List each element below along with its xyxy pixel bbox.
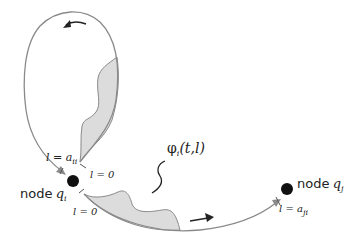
label-out-start: l = 0 bbox=[73, 207, 97, 217]
label-loop-end: l = aii bbox=[46, 152, 77, 166]
loop-direction-arrowhead-icon bbox=[63, 20, 71, 28]
loop-shaded-profile bbox=[80, 57, 118, 162]
label-node-qj: node qj bbox=[297, 177, 344, 193]
label-out-end: l = aji bbox=[279, 204, 308, 217]
phi-pointer-squiggle bbox=[152, 161, 165, 193]
label-phi-function: φi(t,l) bbox=[167, 141, 205, 158]
label-node-qi: node qi bbox=[20, 187, 67, 203]
node-qj bbox=[281, 183, 293, 195]
diagram-canvas: l = aii l = 0 l = 0 l = aji node qi node… bbox=[0, 0, 359, 242]
outgoing-shaded-profile bbox=[84, 191, 180, 230]
flow-direction-arrow-icon bbox=[190, 218, 208, 221]
tick-out-start bbox=[79, 189, 84, 193]
node-qi bbox=[67, 175, 79, 187]
tick-loop-start bbox=[80, 164, 86, 168]
label-loop-start: l = 0 bbox=[90, 170, 114, 180]
flow-direction-arrowhead-icon bbox=[205, 213, 214, 222]
